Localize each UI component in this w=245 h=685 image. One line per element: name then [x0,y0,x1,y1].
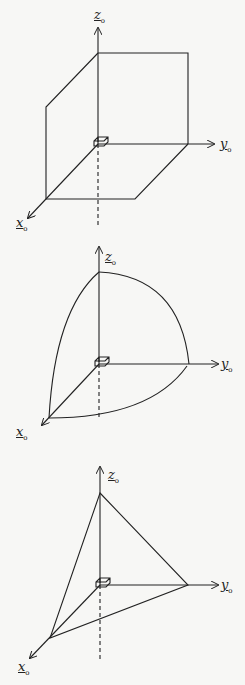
figure-1-plane [28,28,214,228]
y-label-1: yo [220,137,232,154]
z-label-1: zo [94,8,105,25]
x-label-3: xo [18,660,30,677]
small-cube-icon [96,578,110,587]
small-cube-icon [95,357,109,366]
x-axis [28,144,98,218]
figure-2-sphere-octant [42,247,218,425]
small-cube-icon [94,137,108,146]
y-label-3: yo [221,578,233,595]
y-label-2: yo [221,357,233,374]
x-label-1: xo [16,216,28,233]
figure-3-triangle-plane [30,467,218,660]
diagram-canvas [0,0,245,685]
z-label-3: zo [108,468,119,485]
x-label-2: xo [16,425,28,442]
z-label-2: zo [105,250,116,267]
